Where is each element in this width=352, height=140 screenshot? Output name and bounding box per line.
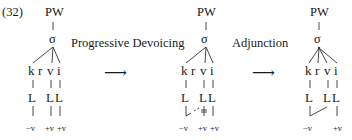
association-lines [0, 0, 352, 140]
